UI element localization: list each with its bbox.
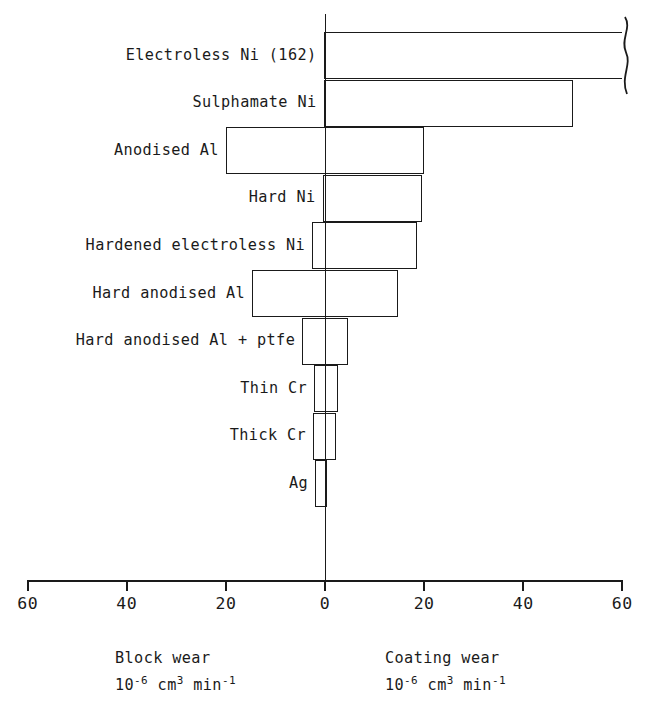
coating-wear-bar <box>325 222 417 269</box>
x-axis: 6040200204060 <box>0 580 661 640</box>
axis-tick-label: 40 <box>513 594 534 613</box>
block-wear-bar <box>226 127 325 174</box>
plot-area: Electroless Ni (162)Sulphamate NiAnodise… <box>0 0 661 560</box>
axis-tick-label: 20 <box>414 594 435 613</box>
block-wear-bar <box>314 365 325 412</box>
axis-tick <box>126 580 128 591</box>
coating-wear-bar <box>325 365 338 412</box>
coating-wear-bar <box>325 175 422 222</box>
units-base-right: 10 <box>385 676 404 694</box>
bar-category-label: Thin Cr <box>240 381 307 396</box>
bar-category-label: Hard anodised Al <box>92 286 245 301</box>
units-exp-minus1-right: -1 <box>492 674 506 687</box>
coating-wear-bar <box>325 270 398 317</box>
bar-category-label: Thick Cr <box>230 428 306 443</box>
axis-tick <box>225 580 227 591</box>
axis-tick <box>522 580 524 591</box>
axis-tick <box>621 580 623 591</box>
bar-row: Thick Cr <box>0 413 661 460</box>
block-wear-bar <box>252 270 325 317</box>
bar-row: Electroless Ni (162) <box>0 32 661 79</box>
coating-wear-bar <box>325 413 336 460</box>
axis-tick-label: 0 <box>320 594 330 613</box>
bar-row: Hardened electroless Ni <box>0 222 661 269</box>
units-exp-minus6-right: -6 <box>404 674 418 687</box>
coating-wear-bar <box>325 32 622 79</box>
block-wear-caption: Block wear 10-6 cm3 min-1 <box>115 645 236 698</box>
bar-row: Ag <box>0 460 661 507</box>
coating-wear-bar <box>325 80 573 127</box>
axis-tick <box>27 580 29 591</box>
coating-wear-caption-units: 10-6 cm3 min-1 <box>385 672 506 699</box>
bar-row: Anodised Al <box>0 127 661 174</box>
coating-wear-caption-title: Coating wear <box>385 645 506 672</box>
coating-wear-bar <box>325 460 327 507</box>
block-wear-bar <box>313 413 325 460</box>
bar-row: Hard Ni <box>0 175 661 222</box>
units-cm-left: cm <box>148 676 177 694</box>
axis-tick-label: 40 <box>116 594 137 613</box>
axis-tick-label: 60 <box>612 594 633 613</box>
wear-comparison-chart: Electroless Ni (162)Sulphamate NiAnodise… <box>0 0 661 714</box>
bar-row: Thin Cr <box>0 365 661 412</box>
units-exp-3-right: 3 <box>447 674 454 687</box>
bar-category-label: Sulphamate Ni <box>192 95 316 110</box>
bar-category-label: Ag <box>289 476 308 491</box>
units-base-left: 10 <box>115 676 134 694</box>
units-exp-3-left: 3 <box>177 674 184 687</box>
block-wear-bar <box>302 318 325 365</box>
bar-category-label: Anodised Al <box>114 143 219 158</box>
axis-tick <box>423 580 425 591</box>
bar-category-label: Hardened electroless Ni <box>86 238 306 253</box>
units-min-right: min <box>454 676 492 694</box>
block-wear-caption-title: Block wear <box>115 645 236 672</box>
bar-category-label: Hard anodised Al + ptfe <box>76 333 296 348</box>
bar-category-label: Electroless Ni (162) <box>126 48 317 63</box>
units-exp-minus1-left: -1 <box>222 674 236 687</box>
bar-category-label: Hard Ni <box>249 190 316 205</box>
coating-wear-caption: Coating wear 10-6 cm3 min-1 <box>385 645 506 698</box>
footer-captions: Block wear 10-6 cm3 min-1 Coating wear 1… <box>0 645 661 714</box>
coating-wear-bar <box>325 127 424 174</box>
bar-row: Hard anodised Al <box>0 270 661 317</box>
axis-tick <box>324 580 326 591</box>
coating-wear-bar <box>325 318 348 365</box>
block-wear-caption-units: 10-6 cm3 min-1 <box>115 672 236 699</box>
units-cm-right: cm <box>418 676 447 694</box>
bar-row: Sulphamate Ni <box>0 80 661 127</box>
axis-tick-label: 20 <box>215 594 236 613</box>
bar-row: Hard anodised Al + ptfe <box>0 318 661 365</box>
axis-tick-label: 60 <box>17 594 38 613</box>
units-min-left: min <box>184 676 222 694</box>
block-wear-bar <box>312 222 325 269</box>
block-wear-bar <box>315 460 325 507</box>
units-exp-minus6-left: -6 <box>134 674 148 687</box>
